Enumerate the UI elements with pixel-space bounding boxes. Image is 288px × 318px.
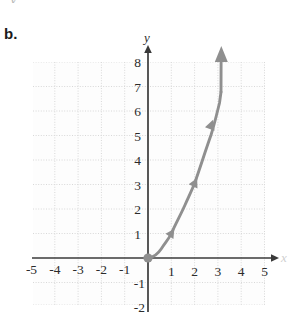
x-tick-label: -3 <box>72 262 83 277</box>
plot-background <box>33 62 265 305</box>
x-tick-label: -4 <box>49 262 60 277</box>
x-tick-label: -1 <box>119 262 130 277</box>
x-tick-label: 2 <box>191 264 198 279</box>
origin-point <box>143 253 152 262</box>
y-axis-arrow <box>144 45 152 53</box>
x-tick-label: -5 <box>26 262 37 277</box>
y-tick-label: 7 <box>134 80 141 95</box>
y-tick-label: -2 <box>134 300 145 315</box>
y-tick-label: -1 <box>134 276 145 291</box>
x-axis-arrow <box>271 254 279 262</box>
x-axis-label: x <box>280 250 287 265</box>
coordinate-plane: y x -5 -4 -3 -2 -1 1 2 3 4 5 8 7 6 5 4 3… <box>0 0 288 318</box>
x-tick-label: 1 <box>168 264 175 279</box>
y-tick-label: 6 <box>134 104 141 119</box>
y-tick-label: 2 <box>134 202 141 217</box>
y-tick-label: 5 <box>134 129 141 144</box>
x-tick-label: 4 <box>238 264 245 279</box>
figure-container: y b. <box>0 0 288 318</box>
x-tick-label: -2 <box>96 262 107 277</box>
x-tick-label: 3 <box>215 264 222 279</box>
y-tick-label: 4 <box>134 153 141 168</box>
y-tick-label: 3 <box>134 178 141 193</box>
x-tick-label: 5 <box>261 264 268 279</box>
y-tick-label: 8 <box>134 55 141 70</box>
y-tick-label: 1 <box>134 227 141 242</box>
y-axis-label: y <box>142 30 150 45</box>
